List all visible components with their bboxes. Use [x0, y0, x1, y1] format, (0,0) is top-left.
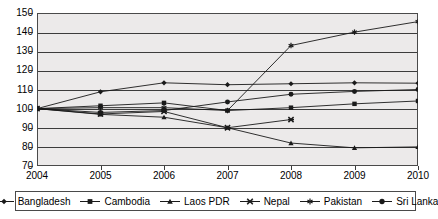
data-point-marker [288, 81, 293, 86]
y-tick-mark-120 [29, 70, 33, 71]
x-tick-label-2005: 2005 [89, 170, 111, 181]
legend-label: Nepal [264, 196, 290, 207]
series-bangladesh [37, 80, 418, 111]
data-point-marker [289, 92, 294, 97]
data-point-marker [289, 105, 293, 109]
x-cross-icon [239, 196, 261, 207]
data-point-marker [352, 89, 357, 94]
data-point-marker [162, 101, 166, 105]
square-icon [79, 196, 101, 207]
series-pakistan [37, 19, 418, 113]
chart-legend: BangladeshCambodiaLaos PDRNepalPakistanS… [15, 191, 416, 211]
data-point-marker [225, 82, 230, 87]
diamond-icon [0, 196, 15, 207]
data-point-marker [161, 80, 166, 85]
y-tick-mark-130 [29, 51, 33, 52]
y-tick-mark-100 [29, 109, 33, 110]
y-tick-mark-80 [29, 147, 33, 148]
legend-label: Cambodia [104, 196, 150, 207]
triangle-icon [159, 196, 181, 207]
data-point-marker [98, 89, 103, 94]
legend-item-cambodia[interactable]: Cambodia [79, 196, 150, 207]
data-point-marker [352, 102, 356, 106]
x-tick-label-2010: 2010 [407, 170, 429, 181]
x-tick-label-2004: 2004 [26, 170, 48, 181]
series-layer [37, 13, 418, 166]
y-tick-mark-90 [29, 128, 33, 129]
legend-item-nepal[interactable]: Nepal [239, 196, 290, 207]
x-tick-label-2006: 2006 [153, 170, 175, 181]
x-tick-label-2007: 2007 [216, 170, 238, 181]
series-line [37, 22, 418, 111]
legend-item-bangladesh[interactable]: Bangladesh [0, 196, 70, 207]
asterisk-icon [299, 196, 321, 207]
legend-label: Pakistan [324, 196, 362, 207]
y-axis: 708090100110120130140150 [0, 13, 33, 166]
legend-item-sri-lanka[interactable]: Sri Lanka [371, 196, 438, 207]
x-tick-label-2009: 2009 [343, 170, 365, 181]
legend-item-pakistan[interactable]: Pakistan [299, 196, 362, 207]
y-tick-mark-110 [29, 90, 33, 91]
legend-label: Sri Lanka [396, 196, 438, 207]
y-tick-mark-140 [29, 32, 33, 33]
data-point-marker [416, 99, 418, 103]
data-point-marker [415, 81, 418, 86]
data-point-marker [98, 110, 103, 115]
data-point-marker [352, 80, 357, 85]
circle-icon [371, 196, 393, 207]
legend-label: Bangladesh [18, 196, 71, 207]
y-tick-mark-150 [29, 13, 33, 14]
legend-item-laos-pdr[interactable]: Laos PDR [159, 196, 230, 207]
data-point-marker [416, 87, 418, 92]
data-point-marker [162, 108, 167, 113]
data-point-marker [288, 117, 294, 122]
y-tick-mark-70 [29, 166, 33, 167]
x-axis: 2004200520062007200820092010 [37, 170, 418, 184]
legend-label: Laos PDR [184, 196, 230, 207]
data-point-marker [225, 99, 230, 104]
x-tick-label-2008: 2008 [280, 170, 302, 181]
